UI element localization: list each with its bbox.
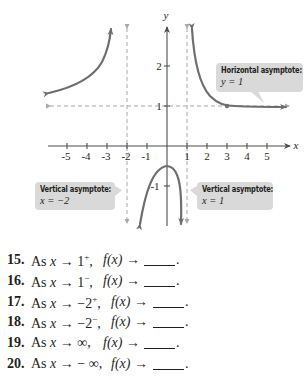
rational-function-graph: -5 -4 -3 -2 -1 1 2 3 4 5 2 1 -1 x y	[0, 0, 307, 250]
svg-text:1: 1	[184, 150, 190, 162]
svg-text:-4: -4	[81, 150, 91, 162]
svg-text:-2: -2	[121, 150, 130, 162]
svg-text:3: 3	[224, 150, 230, 162]
svg-text:1: 1	[156, 100, 162, 112]
left-branch-curve	[49, 29, 111, 93]
callout-title: Vertical asymptote:	[40, 184, 102, 195]
tick-labels: -5 -4 -3 -2 -1 1 2 3 4 5 2 1 -1 x y	[61, 9, 298, 192]
x-axis-label: x	[293, 139, 299, 151]
y-axis-label: y	[163, 9, 169, 21]
vertical-asymptote-left-callout: Vertical asymptote: x = −2	[35, 182, 115, 210]
callout-equation: x = 1	[202, 195, 268, 206]
middle-branch-curve	[140, 166, 181, 224]
answer-blank[interactable]	[144, 286, 175, 287]
answer-blank[interactable]	[144, 348, 175, 349]
callout-title: Horizontal asymptote:	[221, 65, 289, 76]
horizontal-asymptote-callout: Horizontal asymptote: y = 1	[216, 63, 303, 92]
marked-point-3-1	[225, 104, 229, 108]
svg-text:-1: -1	[141, 150, 150, 162]
callout-equation: y = 1	[221, 76, 298, 87]
callout-title: Vertical asymptote:	[202, 184, 260, 195]
svg-text:4: 4	[244, 150, 250, 162]
svg-text:5: 5	[264, 150, 270, 162]
answer-blank[interactable]	[144, 265, 175, 266]
svg-text:2: 2	[204, 150, 210, 162]
answer-blank[interactable]	[153, 369, 184, 370]
vertical-asymptote-right-callout: Vertical asymptote: x = 1	[197, 182, 273, 210]
answer-blank[interactable]	[153, 327, 184, 328]
svg-text:2: 2	[156, 60, 162, 72]
svg-text:-3: -3	[101, 150, 111, 162]
callout-equation: x = −2	[40, 195, 110, 206]
answer-blank[interactable]	[153, 307, 184, 308]
svg-text:-5: -5	[61, 150, 71, 162]
